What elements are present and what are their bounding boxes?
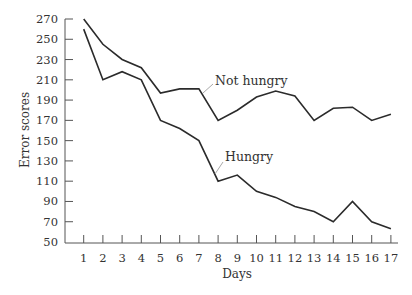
y-tick-label: 70: [43, 215, 58, 229]
y-tick-label: 110: [36, 174, 58, 188]
x-tick-label: 13: [307, 251, 322, 265]
y-tick-label: 130: [36, 154, 58, 168]
x-tick-label: 7: [195, 251, 202, 265]
x-tick-label: 5: [157, 251, 164, 265]
not-hungry-line: [84, 19, 391, 120]
y-axis-title: Error scores: [18, 92, 32, 168]
y-tick-label: 250: [36, 32, 58, 46]
not-hungry-label: Not hungry: [215, 73, 289, 88]
y-axis: 507090110130150170190210230250270: [36, 12, 73, 249]
x-tick-label: 6: [176, 251, 183, 265]
y-tick-label: 270: [36, 12, 58, 26]
y-tick-label: 190: [36, 93, 58, 107]
x-tick-label: 2: [99, 251, 106, 265]
x-axis-title: Days: [222, 267, 252, 281]
x-tick-label: 14: [326, 251, 341, 265]
y-tick-label: 210: [36, 73, 58, 87]
y-tick-label: 170: [36, 113, 58, 127]
x-tick-label: 15: [345, 251, 360, 265]
x-tick-label: 3: [118, 251, 125, 265]
x-tick-label: 12: [288, 251, 303, 265]
y-tick-label: 150: [36, 134, 58, 148]
x-tick-label: 9: [234, 251, 241, 265]
hungry-line: [84, 29, 391, 229]
x-tick-label: 1: [80, 251, 87, 265]
y-tick-label: 90: [43, 194, 58, 208]
hungry-label: Hungry: [225, 149, 274, 164]
line-chart: 507090110130150170190210230250270 123456…: [0, 0, 412, 295]
x-tick-label: 17: [384, 251, 399, 265]
x-tick-label: 10: [249, 251, 264, 265]
x-axis: 1234567891011121314151617: [65, 235, 398, 265]
x-tick-label: 16: [364, 251, 379, 265]
not-hungry-leader-line: [203, 84, 213, 93]
hungry-leader-line: [215, 162, 223, 174]
y-tick-label: 230: [36, 53, 58, 67]
x-tick-label: 11: [268, 251, 283, 265]
y-tick-label: 50: [43, 235, 58, 249]
x-tick-label: 4: [138, 251, 145, 265]
series-lines: [84, 19, 391, 229]
x-tick-label: 8: [214, 251, 221, 265]
